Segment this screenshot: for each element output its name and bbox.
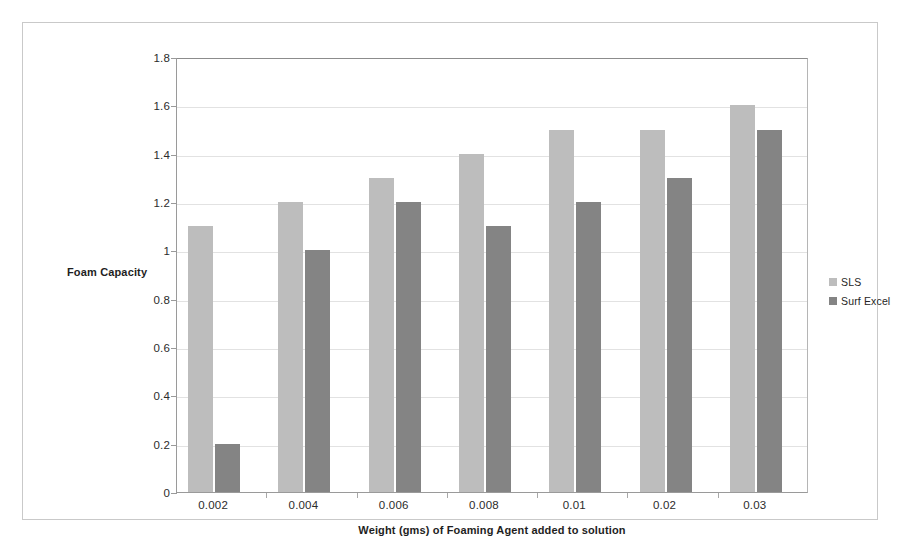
bar-group: [549, 59, 601, 492]
y-axis-tick-mark: [171, 155, 177, 156]
bar-sls: [640, 130, 665, 492]
bar-sls: [278, 202, 303, 492]
bar-surf-excel: [215, 444, 240, 492]
x-axis-title: Weight (gms) of Foaming Agent added to s…: [176, 524, 808, 536]
x-axis-tick-mark: [266, 493, 267, 498]
y-axis-tick-mark: [171, 300, 177, 301]
bar-group: [640, 59, 692, 492]
y-axis-tick-label: 1.8: [124, 52, 170, 64]
bar-group: [369, 59, 421, 492]
y-axis-tick-label: 0.4: [124, 390, 170, 402]
y-axis-tick-label: 0.8: [124, 294, 170, 306]
legend-swatch-icon: [829, 278, 837, 286]
x-axis-tick-mark: [718, 493, 719, 498]
y-axis-tick-mark: [171, 348, 177, 349]
y-axis-tick-label: 0: [124, 487, 170, 499]
y-axis-tick-label: 1.4: [124, 149, 170, 161]
y-axis-tick-label: 0.2: [124, 439, 170, 451]
y-axis-tick-mark: [171, 58, 177, 59]
x-axis-tick-label: 0.008: [469, 499, 499, 511]
legend-item[interactable]: Surf Excel: [829, 295, 902, 307]
legend-label: Surf Excel: [841, 295, 890, 307]
y-axis-tick-mark: [171, 251, 177, 252]
chart-frame: 00.20.40.60.811.21.41.61.8 Foam Capacity…: [22, 22, 878, 520]
plot-area: [176, 58, 808, 493]
x-axis-tick-label: 0.01: [563, 499, 586, 511]
y-axis-tick-mark: [171, 493, 177, 494]
bar-sls: [730, 105, 755, 492]
x-axis-tick-mark: [357, 493, 358, 498]
bar-surf-excel: [576, 202, 601, 492]
bar-surf-excel: [305, 250, 330, 492]
x-axis-tick-label: 0.03: [743, 499, 766, 511]
bar-surf-excel: [486, 226, 511, 492]
bar-surf-excel: [396, 202, 421, 492]
y-axis-tick-label: 0.6: [124, 342, 170, 354]
bar-group: [459, 59, 511, 492]
x-axis-tick-mark: [537, 493, 538, 498]
y-axis-tick-mark: [171, 396, 177, 397]
legend-swatch-icon: [829, 297, 837, 305]
legend-label: SLS: [841, 276, 861, 288]
y-axis-tick-label: 1.6: [124, 100, 170, 112]
y-axis-tick-mark: [171, 445, 177, 446]
bar-group: [188, 59, 240, 492]
bar-surf-excel: [757, 130, 782, 492]
bar-surf-excel: [667, 178, 692, 492]
bar-sls: [459, 154, 484, 492]
y-axis-tick-label: 1.2: [124, 197, 170, 209]
bar-sls: [188, 226, 213, 492]
y-axis-title: Foam Capacity: [67, 266, 147, 278]
x-axis-tick-label: 0.004: [289, 499, 319, 511]
bar-sls: [369, 178, 394, 492]
x-axis-tick-labels: 0.0020.0040.0060.0080.010.020.03: [176, 499, 808, 519]
bar-group: [730, 59, 782, 492]
y-axis-tick-label: 1: [124, 245, 170, 257]
x-axis-tick-mark: [627, 493, 628, 498]
y-axis-tick-mark: [171, 106, 177, 107]
x-axis-tick-label: 0.006: [379, 499, 409, 511]
bar-group: [278, 59, 330, 492]
y-axis-tick-mark: [171, 203, 177, 204]
legend-item[interactable]: SLS: [829, 276, 902, 288]
bar-sls: [549, 130, 574, 492]
x-axis-tick-label: 0.002: [198, 499, 228, 511]
x-axis-tick-label: 0.02: [653, 499, 676, 511]
chart-legend: SLSSurf Excel: [829, 276, 902, 314]
x-axis-tick-mark: [447, 493, 448, 498]
